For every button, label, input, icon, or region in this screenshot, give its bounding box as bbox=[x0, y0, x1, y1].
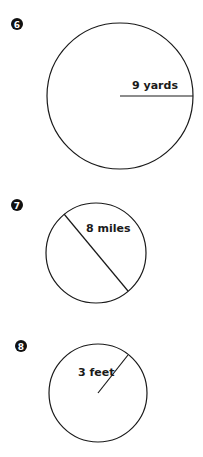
problem-6: 6 9 yards bbox=[11, 18, 193, 169]
problem-6-measure-label: 9 yards bbox=[132, 79, 178, 92]
problem-8: 8 3 feet bbox=[15, 340, 147, 442]
problem-7: 7 8 miles bbox=[11, 199, 146, 303]
problem-7-number: 7 bbox=[14, 201, 20, 211]
problem-6-number: 6 bbox=[14, 20, 20, 30]
problem-8-number: 8 bbox=[18, 342, 24, 352]
problem-8-measure-label: 3 feet bbox=[78, 366, 114, 379]
problem-7-measure-label: 8 miles bbox=[86, 222, 131, 235]
circle-problems-figure: 6 9 yards 7 8 miles 8 3 feet bbox=[0, 0, 203, 457]
